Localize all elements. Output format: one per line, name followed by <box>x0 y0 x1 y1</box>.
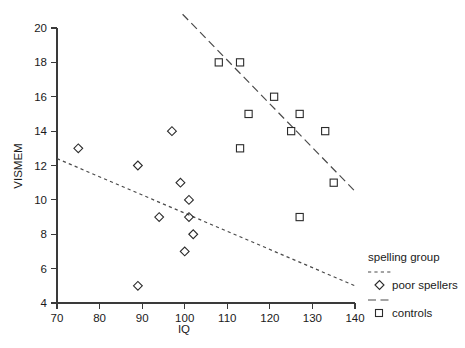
x-tick-label: 80 <box>93 312 106 324</box>
data-point-marker <box>176 178 185 187</box>
data-point-marker <box>296 213 303 220</box>
data-point-marker <box>245 110 252 117</box>
data-point-marker <box>236 145 243 152</box>
regression-lines-group <box>57 14 355 286</box>
x-tick-label: 70 <box>51 312 64 324</box>
square-marker-icon <box>376 310 383 317</box>
legend-title: spelling group <box>368 251 440 263</box>
series-controls-markers <box>215 59 337 221</box>
x-tick-label: 140 <box>345 312 364 324</box>
y-tick-label: 4 <box>41 297 48 309</box>
data-point-marker <box>168 127 177 136</box>
y-tick-label: 10 <box>34 194 47 206</box>
legend-entry-controls[interactable]: controls <box>368 300 433 319</box>
data-point-marker <box>185 195 194 204</box>
scatterplot-figure: 468101214161820 708090100110120130140 IQ… <box>0 0 465 348</box>
data-point-marker <box>189 230 198 239</box>
regression-line-poor-spellers <box>57 159 355 286</box>
data-point-marker <box>74 144 83 153</box>
y-axis-title: VISMEM <box>12 143 24 188</box>
y-tick-label: 14 <box>34 125 47 137</box>
x-tick-label: 120 <box>260 312 279 324</box>
data-point-marker <box>155 213 164 222</box>
data-point-marker <box>133 161 142 170</box>
data-point-marker <box>185 213 194 222</box>
plot-canvas: 468101214161820 708090100110120130140 IQ… <box>0 0 465 348</box>
legend-label-poor-spellers: poor spellers <box>392 279 458 291</box>
diamond-marker-icon <box>375 281 384 290</box>
data-point-marker <box>236 59 243 66</box>
y-tick-label: 20 <box>34 22 47 34</box>
y-axis-ticks: 468101214161820 <box>34 22 57 309</box>
data-point-marker <box>296 110 303 117</box>
data-point-marker <box>288 128 295 135</box>
y-tick-label: 16 <box>34 91 47 103</box>
y-tick-label: 8 <box>41 228 47 240</box>
y-tick-label: 12 <box>34 160 47 172</box>
legend-label-controls: controls <box>392 307 433 319</box>
x-axis-ticks: 708090100110120130140 <box>51 303 365 324</box>
y-tick-label: 6 <box>41 263 47 275</box>
regression-line-controls <box>183 14 355 191</box>
x-tick-label: 130 <box>303 312 322 324</box>
legend-entry-poor-spellers[interactable]: poor spellers <box>368 272 458 291</box>
axes-group <box>57 28 355 303</box>
data-point-marker <box>180 247 189 256</box>
series-poor-spellers-markers <box>74 127 198 290</box>
y-tick-label: 18 <box>34 56 47 68</box>
data-point-marker <box>330 179 337 186</box>
data-point-marker <box>133 281 142 290</box>
data-point-marker <box>322 128 329 135</box>
x-tick-label: 90 <box>136 312 149 324</box>
x-axis-title: IQ <box>178 323 190 335</box>
legend: spelling group poor spellers controls <box>368 251 458 319</box>
data-point-marker <box>215 59 222 66</box>
x-tick-label: 110 <box>218 312 236 324</box>
data-point-marker <box>271 93 278 100</box>
